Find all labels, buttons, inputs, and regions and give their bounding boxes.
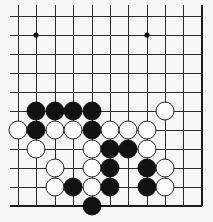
black-stone[interactable] (83, 121, 101, 139)
go-board[interactable] (0, 0, 213, 222)
black-stone[interactable] (119, 140, 137, 158)
white-stone[interactable] (46, 178, 64, 196)
black-stone[interactable] (101, 140, 119, 158)
white-stone[interactable] (138, 140, 156, 158)
white-stone[interactable] (119, 121, 137, 139)
white-stone[interactable] (64, 121, 82, 139)
black-stone[interactable] (27, 102, 45, 120)
white-stone[interactable] (83, 159, 101, 177)
black-stone[interactable] (138, 159, 156, 177)
black-stone[interactable] (83, 102, 101, 120)
white-stone[interactable] (27, 140, 45, 158)
black-stone[interactable] (64, 178, 82, 196)
white-stone[interactable] (46, 121, 64, 139)
star-point-icon (144, 32, 149, 37)
black-stone[interactable] (101, 159, 119, 177)
black-stone[interactable] (101, 178, 119, 196)
black-stone[interactable] (83, 197, 101, 215)
white-stone[interactable] (46, 159, 64, 177)
white-stone[interactable] (138, 121, 156, 139)
white-stone[interactable] (83, 178, 101, 196)
white-stone[interactable] (9, 121, 27, 139)
black-stone[interactable] (64, 102, 82, 120)
white-stone[interactable] (156, 178, 174, 196)
white-stone[interactable] (156, 102, 174, 120)
white-stone[interactable] (101, 121, 119, 139)
star-point-icon (33, 32, 38, 37)
black-stone[interactable] (27, 121, 45, 139)
white-stone[interactable] (156, 159, 174, 177)
black-stone[interactable] (138, 178, 156, 196)
black-stone[interactable] (46, 102, 64, 120)
white-stone[interactable] (83, 140, 101, 158)
